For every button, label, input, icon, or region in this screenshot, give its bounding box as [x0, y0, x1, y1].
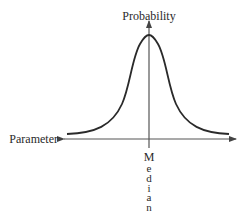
- y-axis-label: Probability: [122, 9, 175, 23]
- median-letter: n: [146, 201, 152, 213]
- median-label: M e d i a a n: [144, 150, 155, 213]
- bell-curve-diagram: Probability Parameter M e d i a a n: [0, 0, 248, 218]
- probability-curve: [67, 35, 229, 134]
- x-axis-label: Parameter: [9, 132, 58, 146]
